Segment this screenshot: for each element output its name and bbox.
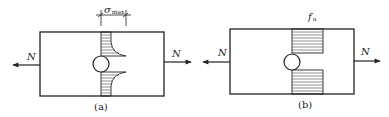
stress-label-b: fu xyxy=(307,11,317,22)
force-label-right-a: N xyxy=(171,48,182,59)
force-label-left-a: N xyxy=(26,51,37,62)
stress-distribution-a-bottom xyxy=(101,72,126,96)
stress-label-a: σmax xyxy=(104,4,125,15)
stress-block-b-bottom xyxy=(292,70,323,94)
stress-distribution-a-top xyxy=(101,32,126,56)
hole-a xyxy=(93,56,109,72)
caption-a: (a) xyxy=(94,101,108,112)
stress-diagram: σmax N N (a) xyxy=(0,0,389,117)
force-label-left-b: N xyxy=(217,47,228,58)
panel-a: σmax N N (a) xyxy=(13,4,191,112)
panel-b: fu N N (b) xyxy=(203,11,380,110)
caption-b: (b) xyxy=(298,99,312,110)
hole-b xyxy=(284,54,300,70)
force-label-right-b: N xyxy=(360,46,371,57)
stress-block-b-top xyxy=(292,29,323,53)
